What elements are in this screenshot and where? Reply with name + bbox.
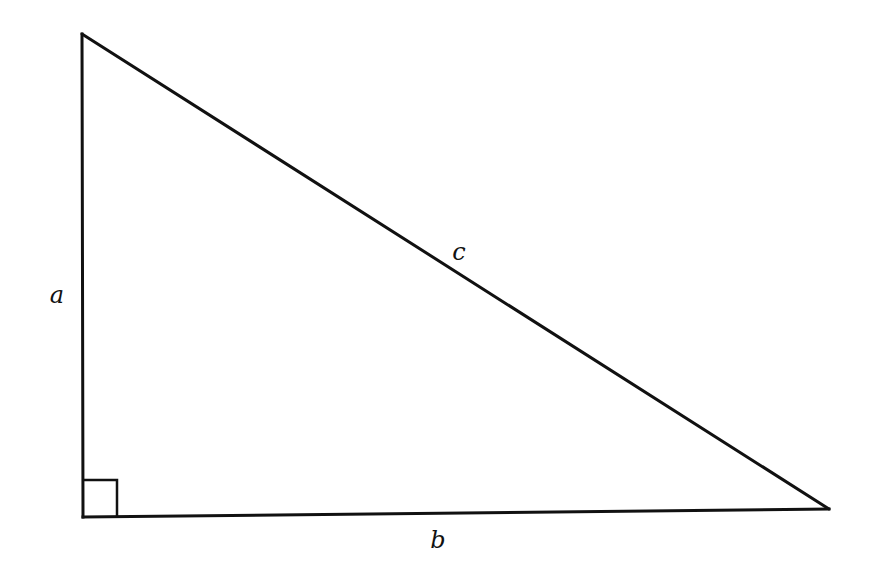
label-b: b bbox=[430, 528, 445, 552]
leg-a-line bbox=[82, 34, 83, 517]
hypotenuse-c-line bbox=[82, 34, 829, 509]
right-angle-marker bbox=[84, 480, 117, 517]
leg-b-line bbox=[83, 509, 829, 517]
label-c: c bbox=[452, 240, 465, 264]
label-a: a bbox=[50, 283, 64, 307]
right-triangle-diagram bbox=[0, 0, 875, 578]
